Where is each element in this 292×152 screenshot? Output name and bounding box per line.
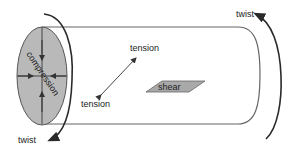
twist-label-top: twist (236, 9, 254, 19)
cross-section: compression (17, 27, 67, 125)
twist-right: twist (236, 9, 281, 139)
shear: shear (146, 81, 205, 92)
cylinder-diagram: compression twist twist tension tension … (0, 0, 292, 152)
shear-label: shear (158, 82, 181, 92)
twist-label-bottom: twist (18, 135, 36, 145)
diagram-canvas: compression twist twist tension tension … (0, 0, 292, 152)
tension-label-bottom: tension (81, 99, 110, 109)
tension-arrow (101, 58, 136, 95)
tension: tension tension (81, 43, 159, 109)
cylinder-right-end (238, 27, 260, 124)
cylinder-body (42, 27, 260, 124)
tension-label-top: tension (130, 43, 159, 53)
